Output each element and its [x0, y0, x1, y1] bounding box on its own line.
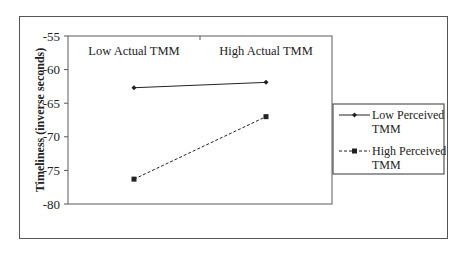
line-chart: -55-60-65-70-75-80 Low Actual TMMHigh Ac… [0, 0, 466, 255]
legend-label-low-perceived-1: Low Perceived [372, 108, 444, 122]
category-labels: Low Actual TMMHigh Actual TMM [88, 44, 312, 58]
legend-label-high-perceived-1: High Perceived [372, 144, 446, 158]
series-line [134, 82, 266, 87]
y-axis-label: Timeliness (inverse seconds) [33, 48, 47, 192]
y-tick-label: -55 [43, 29, 60, 44]
square-marker-icon [132, 177, 137, 182]
plot-area [68, 36, 332, 204]
category-label: Low Actual TMM [88, 44, 179, 58]
category-label: High Actual TMM [219, 44, 313, 58]
y-tick-label: -80 [43, 197, 60, 212]
series-line [134, 117, 266, 179]
diamond-marker-icon [132, 85, 137, 90]
series-group [132, 80, 269, 182]
square-marker-icon [352, 149, 357, 154]
legend-label-low-perceived-2: TMM [372, 122, 401, 136]
diamond-marker-icon [264, 80, 269, 85]
legend-label-high-perceived-2: TMM [372, 158, 401, 172]
square-marker-icon [264, 114, 269, 119]
